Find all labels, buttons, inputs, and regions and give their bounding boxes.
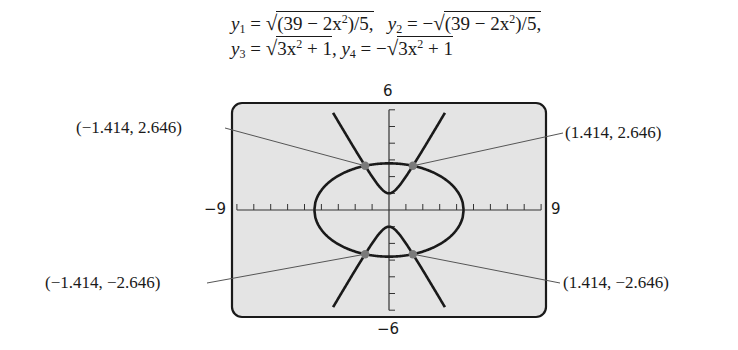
ymax-label: 6	[383, 82, 393, 100]
intersection-point-top-right	[409, 162, 417, 170]
intersection-point-bottom-left	[361, 250, 369, 258]
intersection-point-top-left	[361, 162, 369, 170]
label-top-left: (−1.414, 2.646)	[76, 118, 182, 138]
xmin-label: −9	[204, 200, 226, 218]
ymin-label: −6	[377, 320, 399, 338]
label-bottom-right: (1.414, −2.646)	[563, 273, 669, 293]
xmax-label: 9	[551, 200, 561, 218]
calculator-graph-screen	[0, 0, 738, 350]
label-top-right: (1.414, 2.646)	[565, 123, 661, 143]
label-bottom-left: (−1.414, −2.646)	[45, 273, 161, 293]
intersection-point-bottom-right	[409, 250, 417, 258]
